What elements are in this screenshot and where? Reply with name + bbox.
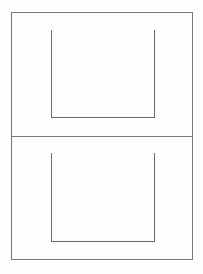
- document-page: [0, 0, 203, 274]
- form-outline-drawing: [0, 0, 203, 274]
